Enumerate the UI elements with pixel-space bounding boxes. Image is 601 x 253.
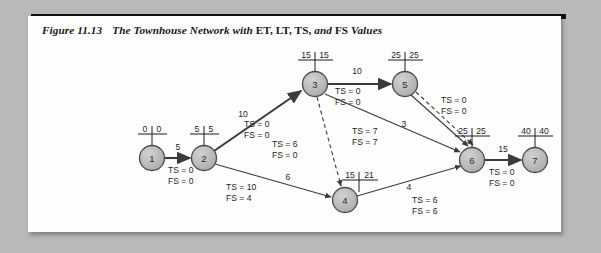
network-diagram: 0 0 5 5 15 15 15 21 25 25 (0, 0, 601, 253)
lt-value-node-6: 25 (476, 126, 486, 136)
et-value-node-7: 40 (521, 126, 531, 136)
fs-edge-2-4: FS = 4 (226, 193, 252, 203)
node-3[interactable]: 3 (303, 72, 328, 97)
etlt-marker-node-7: 40 40 (518, 126, 553, 148)
duration-edge-3-6: 3 (402, 119, 407, 129)
fs-edge-1-2: FS = 0 (168, 176, 194, 186)
node-1-label: 1 (149, 153, 154, 164)
fs-edge-2-3: FS = 0 (244, 130, 270, 140)
node-3-label: 3 (312, 79, 317, 90)
fs-edge-3-5: FS = 0 (335, 97, 361, 107)
lt-value-node-1: 0 (157, 124, 162, 134)
et-value-node-6: 25 (458, 126, 468, 136)
fs-edge-4-6: FS = 6 (412, 206, 438, 216)
ts-edge-3-6: TS = 7 (352, 126, 378, 136)
tsfs-edge-1-2: TS = 0 FS = 0 (168, 165, 194, 186)
node-5-label: 5 (402, 79, 407, 90)
et-value-node-2: 5 (195, 124, 200, 134)
duration-edge-3-5: 10 (352, 66, 362, 76)
etlt-marker-node-1: 0 0 (138, 124, 167, 146)
node-2[interactable]: 2 (192, 146, 217, 171)
et-value-node-5: 25 (391, 50, 401, 60)
node-2-label: 2 (201, 153, 206, 164)
node-7-label: 7 (532, 155, 537, 166)
et-value-node-3: 15 (301, 50, 311, 60)
ts-edge-6-7: TS = 0 (489, 167, 515, 177)
fs-edge-3-4: FS = 0 (272, 150, 298, 160)
ts-edge-2-4: TS = 10 (226, 182, 257, 192)
fs-edge-5-6: FS = 0 (441, 106, 467, 116)
tsfs-edge-2-4: TS = 10 FS = 4 (226, 182, 257, 203)
fs-edge-6-7: FS = 0 (489, 178, 515, 188)
lt-value-node-4: 21 (364, 170, 374, 180)
lt-value-node-3: 15 (319, 50, 329, 60)
lt-value-node-7: 40 (539, 126, 549, 136)
duration-edge-2-3: 10 (238, 109, 248, 119)
ts-edge-2-3: TS = 0 (244, 119, 270, 129)
ts-edge-1-2: TS = 0 (168, 165, 194, 175)
tsfs-edge-3-6: TS = 7 FS = 7 (352, 126, 378, 147)
edge-3-4-dummy (317, 97, 341, 186)
tsfs-edge-3-5: TS = 0 FS = 0 (335, 86, 361, 107)
etlt-marker-node-2: 5 5 (190, 124, 219, 146)
ts-edge-3-5: TS = 0 (335, 86, 361, 96)
duration-edge-4-6: 4 (407, 182, 412, 192)
duration-edge-2-4: 6 (286, 172, 291, 182)
duration-edge-6-7: 15 (498, 144, 508, 154)
duration-edge-1-2: 5 (176, 142, 181, 152)
node-4-label: 4 (342, 195, 347, 206)
etlt-marker-node-5: 25 25 (388, 50, 423, 72)
lt-value-node-5: 25 (409, 50, 419, 60)
fs-edge-3-6: FS = 7 (352, 137, 378, 147)
lt-value-node-2: 5 (209, 124, 214, 134)
tsfs-edge-6-7: TS = 0 FS = 0 (489, 167, 515, 188)
node-7[interactable]: 7 (523, 148, 548, 173)
tsfs-edge-4-6: TS = 6 FS = 6 (412, 195, 438, 216)
ts-edge-4-6: TS = 6 (412, 195, 438, 205)
node-6-label: 6 (469, 155, 474, 166)
etlt-marker-node-6: 25 25 (455, 126, 490, 148)
tsfs-edge-2-3: TS = 0 FS = 0 (244, 119, 270, 140)
ts-edge-5-6: TS = 0 (441, 95, 467, 105)
node-1[interactable]: 1 (140, 146, 165, 171)
ts-edge-3-4: TS = 6 (272, 139, 298, 149)
tsfs-edge-3-4: TS = 6 FS = 0 (272, 139, 298, 160)
et-value-node-1: 0 (143, 124, 148, 134)
et-value-node-4: 15 (345, 170, 355, 180)
etlt-marker-node-3: 15 15 (298, 50, 333, 72)
node-6[interactable]: 6 (460, 148, 485, 173)
tsfs-edge-5-6: TS = 0 FS = 0 (441, 95, 467, 116)
node-5[interactable]: 5 (393, 72, 418, 97)
node-4[interactable]: 4 (333, 188, 358, 213)
